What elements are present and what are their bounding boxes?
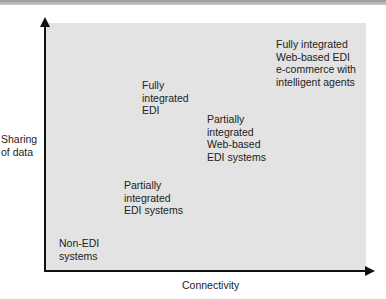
x-axis-line [44,270,365,272]
y-axis-line [44,26,46,272]
y-axis-label: Sharing of data [1,133,37,158]
node-non-edi-systems: Non-EDI systems [59,237,99,262]
node-partially-integrated-web-edi: Partially integrated Web-based EDI syste… [207,113,266,163]
node-fully-integrated-web-edi-agents: Fully integrated Web-based EDI e-commerc… [276,38,356,88]
x-axis-label: Connectivity [182,279,239,292]
y-axis-arrow-icon [40,17,50,27]
node-partially-integrated-edi: Partially integrated EDI systems [124,179,183,217]
x-axis-arrow-icon [365,266,375,276]
node-fully-integrated-edi: Fully integrated EDI [142,79,189,117]
top-border [0,0,386,5]
